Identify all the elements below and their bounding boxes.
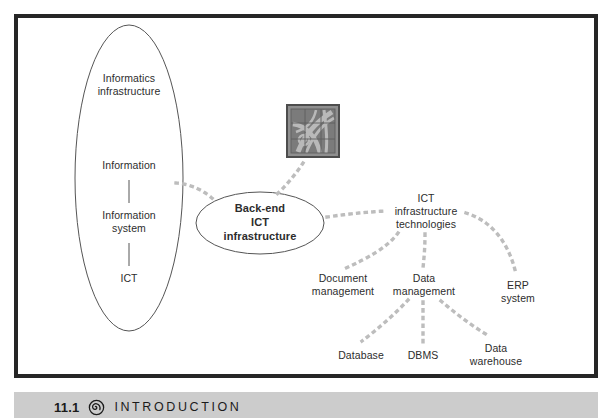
connector-root-to-document-management [344,233,398,269]
label-information-system: Information system [79,209,179,235]
connector-left-to-center [176,183,214,200]
label-informatics-infrastructure: Informatics infrastructure [79,72,179,98]
label-back-end-ict-infrastructure: Back-end ICT infrastructure [200,201,320,243]
connector-root-to-data-management [423,234,425,268]
label-data-warehouse: Data warehouse [455,342,537,368]
section-number: 11.1 [54,400,79,415]
connector-tile-to-center [276,163,303,195]
label-ict-infrastructure-technologies: ICT infrastructure technologies [378,192,474,231]
connector-data-management-to-data-warehouse [441,301,489,336]
spiral-icon [88,399,105,416]
label-database: Database [321,349,401,362]
connector-data-management-to-database [362,300,408,341]
label-erp-system: ERP system [487,279,549,305]
section-caption: 11.1 INTRODUCTION [54,396,241,418]
label-dbms: DBMS [394,349,452,362]
decorative-tile-icon [286,104,340,158]
section-title: INTRODUCTION [114,400,241,414]
label-document-management: Document management [294,272,392,298]
informatics-infrastructure-ellipse-outline [75,25,183,331]
label-data-management: Data management [379,272,469,298]
label-information: Information [79,159,179,172]
label-ict: ICT [79,272,179,285]
